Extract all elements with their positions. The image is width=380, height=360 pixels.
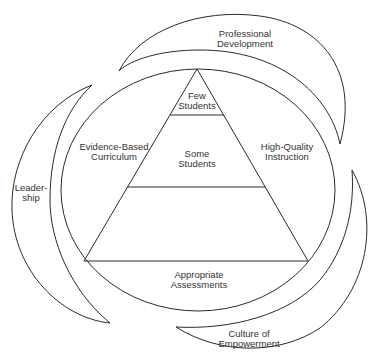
crescent-label-professional-development: Professional Development bbox=[212, 29, 278, 49]
label-line: Students bbox=[172, 159, 222, 169]
label-line: Curriculum bbox=[74, 152, 154, 162]
label-line: Instruction bbox=[254, 152, 320, 162]
pyramid-label-few-students: Few Students bbox=[172, 91, 222, 111]
circle-label-evidence-based-curriculum: Evidence-Based Curriculum bbox=[74, 142, 154, 162]
label-line: ship bbox=[13, 193, 49, 203]
label-line: Empowerment bbox=[214, 339, 284, 349]
pyramid-label-some-students: Some Students bbox=[172, 149, 222, 169]
label-line: Students bbox=[172, 101, 222, 111]
crescent-leadership bbox=[12, 85, 110, 323]
label-line: Assessments bbox=[166, 280, 232, 290]
crescent-label-culture-of-empowerment: Culture of Empowerment bbox=[214, 329, 284, 349]
circle-label-appropriate-assessments: Appropriate Assessments bbox=[166, 270, 232, 290]
circle-label-high-quality-instruction: High-Quality Instruction bbox=[254, 142, 320, 162]
crescent-culture-of-empowerment bbox=[176, 170, 367, 348]
crescent-label-leadership: Leader- ship bbox=[13, 183, 49, 203]
diagram-canvas bbox=[0, 0, 380, 360]
label-line: Development bbox=[212, 39, 278, 49]
